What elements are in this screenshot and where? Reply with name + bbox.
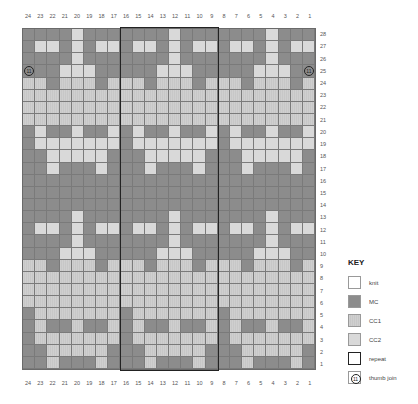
chart-cell bbox=[218, 41, 230, 53]
chart-cell bbox=[254, 320, 266, 332]
chart-cell bbox=[145, 175, 157, 187]
chart-cell bbox=[254, 211, 266, 223]
chart-cell bbox=[35, 90, 47, 102]
chart-cell bbox=[291, 187, 303, 199]
chart-cell bbox=[84, 29, 96, 41]
chart-cell bbox=[133, 308, 145, 320]
chart-cell bbox=[84, 320, 96, 332]
chart-cell bbox=[254, 78, 266, 90]
chart-cell bbox=[218, 284, 230, 296]
chart-cell bbox=[242, 248, 254, 260]
chart-cell bbox=[47, 223, 59, 235]
chart-cell bbox=[23, 357, 35, 369]
chart-cell bbox=[291, 90, 303, 102]
chart-cell bbox=[84, 53, 96, 65]
chart-cell bbox=[145, 333, 157, 345]
column-number: 7 bbox=[230, 380, 242, 386]
chart-cell bbox=[133, 90, 145, 102]
chart-cell bbox=[108, 284, 120, 296]
chart-cell bbox=[279, 284, 291, 296]
chart-cell bbox=[230, 187, 242, 199]
chart-cell bbox=[60, 175, 72, 187]
row-number: 25 bbox=[320, 65, 326, 77]
column-number: 13 bbox=[157, 13, 169, 19]
chart-cell bbox=[96, 102, 108, 114]
chart-cell bbox=[254, 41, 266, 53]
chart-cell bbox=[60, 296, 72, 308]
chart-cell bbox=[206, 175, 218, 187]
chart-cell bbox=[133, 345, 145, 357]
chart-cell bbox=[84, 333, 96, 345]
chart-cell bbox=[84, 223, 96, 235]
chart-cell bbox=[266, 235, 278, 247]
chart-cell bbox=[169, 150, 181, 162]
chart-cell bbox=[193, 248, 205, 260]
chart-cell bbox=[206, 284, 218, 296]
chart-cell bbox=[60, 308, 72, 320]
chart-cell bbox=[218, 272, 230, 284]
column-number: 16 bbox=[120, 380, 132, 386]
chart-cell bbox=[242, 126, 254, 138]
chart-cell bbox=[230, 357, 242, 369]
chart-cell bbox=[279, 163, 291, 175]
chart-cell bbox=[35, 223, 47, 235]
chart-cell bbox=[218, 150, 230, 162]
chart-cell bbox=[279, 308, 291, 320]
chart-cell bbox=[291, 114, 303, 126]
chart-cell bbox=[279, 78, 291, 90]
chart-cell bbox=[230, 53, 242, 65]
chart-cell bbox=[206, 211, 218, 223]
chart-cell bbox=[96, 235, 108, 247]
chart-cell bbox=[157, 199, 169, 211]
chart-cell bbox=[35, 272, 47, 284]
chart-cell bbox=[108, 211, 120, 223]
chart-cell bbox=[242, 138, 254, 150]
chart-cell bbox=[47, 126, 59, 138]
chart-cell bbox=[35, 211, 47, 223]
chart-cell bbox=[218, 138, 230, 150]
chart-cell bbox=[230, 272, 242, 284]
chart-cell bbox=[291, 163, 303, 175]
chart-cell bbox=[169, 126, 181, 138]
chart-cell bbox=[84, 272, 96, 284]
chart-cell bbox=[145, 296, 157, 308]
chart-cell: 11 bbox=[303, 65, 315, 77]
chart-cell bbox=[145, 284, 157, 296]
chart-cell bbox=[206, 357, 218, 369]
chart-cell bbox=[120, 41, 132, 53]
chart-cell bbox=[35, 333, 47, 345]
chart-cell bbox=[254, 333, 266, 345]
chart-cell bbox=[72, 150, 84, 162]
chart-cell bbox=[133, 163, 145, 175]
chart-cell bbox=[47, 272, 59, 284]
chart-cell bbox=[145, 102, 157, 114]
chart-cell bbox=[60, 357, 72, 369]
row-number: 20 bbox=[320, 126, 326, 138]
chart-cell bbox=[291, 102, 303, 114]
chart-cell bbox=[108, 65, 120, 77]
chart-cell bbox=[145, 114, 157, 126]
chart-cell bbox=[72, 260, 84, 272]
chart-cell bbox=[72, 90, 84, 102]
column-number: 15 bbox=[132, 380, 144, 386]
column-number: 6 bbox=[243, 13, 255, 19]
chart-cell bbox=[120, 175, 132, 187]
chart-cell bbox=[291, 175, 303, 187]
chart-cell bbox=[279, 320, 291, 332]
chart-cell bbox=[72, 163, 84, 175]
row-number: 19 bbox=[320, 138, 326, 150]
chart-cell bbox=[266, 138, 278, 150]
chart-cell bbox=[96, 163, 108, 175]
chart-cell bbox=[279, 199, 291, 211]
chart-cell bbox=[266, 65, 278, 77]
chart-cell bbox=[60, 187, 72, 199]
chart-cell bbox=[254, 357, 266, 369]
chart-cell bbox=[193, 357, 205, 369]
chart-cell bbox=[242, 260, 254, 272]
chart-cell bbox=[279, 187, 291, 199]
chart-cell bbox=[279, 102, 291, 114]
chart-cell bbox=[303, 90, 315, 102]
chart-cell bbox=[230, 163, 242, 175]
chart-cell bbox=[206, 260, 218, 272]
chart-cell bbox=[169, 345, 181, 357]
